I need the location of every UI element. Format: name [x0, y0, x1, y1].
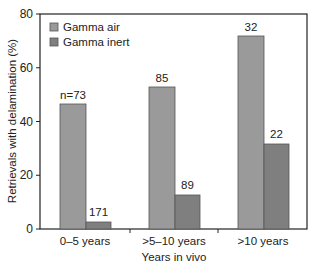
- legend-swatch-gamma-inert: [50, 38, 58, 46]
- bar-n-label: 171: [89, 206, 108, 218]
- y-tick-label: 60: [20, 61, 34, 75]
- y-axis-label: Retrievals with delamination (%): [6, 39, 18, 203]
- legend-swatch-gamma-air: [50, 23, 58, 31]
- bar-gamma-inert: [86, 222, 111, 229]
- x-axis-label: Years in vivo: [142, 251, 207, 263]
- y-tick-label: 0: [26, 222, 33, 236]
- bar-gamma-inert: [175, 195, 200, 229]
- y-tick-label: 80: [20, 7, 34, 21]
- legend-label: Gamma air: [63, 21, 120, 33]
- bar-gamma-air: [238, 36, 264, 229]
- bar-n-label: 22: [270, 128, 283, 140]
- x-tick-label: >5–10 years: [142, 235, 206, 247]
- y-tick-label: 20: [20, 168, 34, 182]
- bar-chart: 80 60 40 20 0 Retrievals with delaminati…: [0, 0, 316, 268]
- bar-gamma-air: [149, 87, 175, 229]
- bar-n-label: 85: [156, 72, 169, 84]
- y-axis: 80 60 40 20 0 Retrievals with delaminati…: [6, 7, 40, 236]
- x-tick-label: 0–5 years: [60, 235, 111, 247]
- legend-label: Gamma inert: [63, 36, 130, 48]
- bar-n-label: 32: [245, 21, 258, 33]
- bar-gamma-air: [60, 104, 86, 229]
- bar-gamma-inert: [264, 144, 289, 229]
- bar-n-label: n=73: [60, 89, 86, 101]
- bar-n-label: 89: [181, 179, 194, 191]
- x-tick-label: >10 years: [238, 235, 289, 247]
- x-axis: 0–5 years >5–10 years >10 years Years in…: [60, 229, 289, 263]
- y-tick-label: 40: [20, 115, 34, 129]
